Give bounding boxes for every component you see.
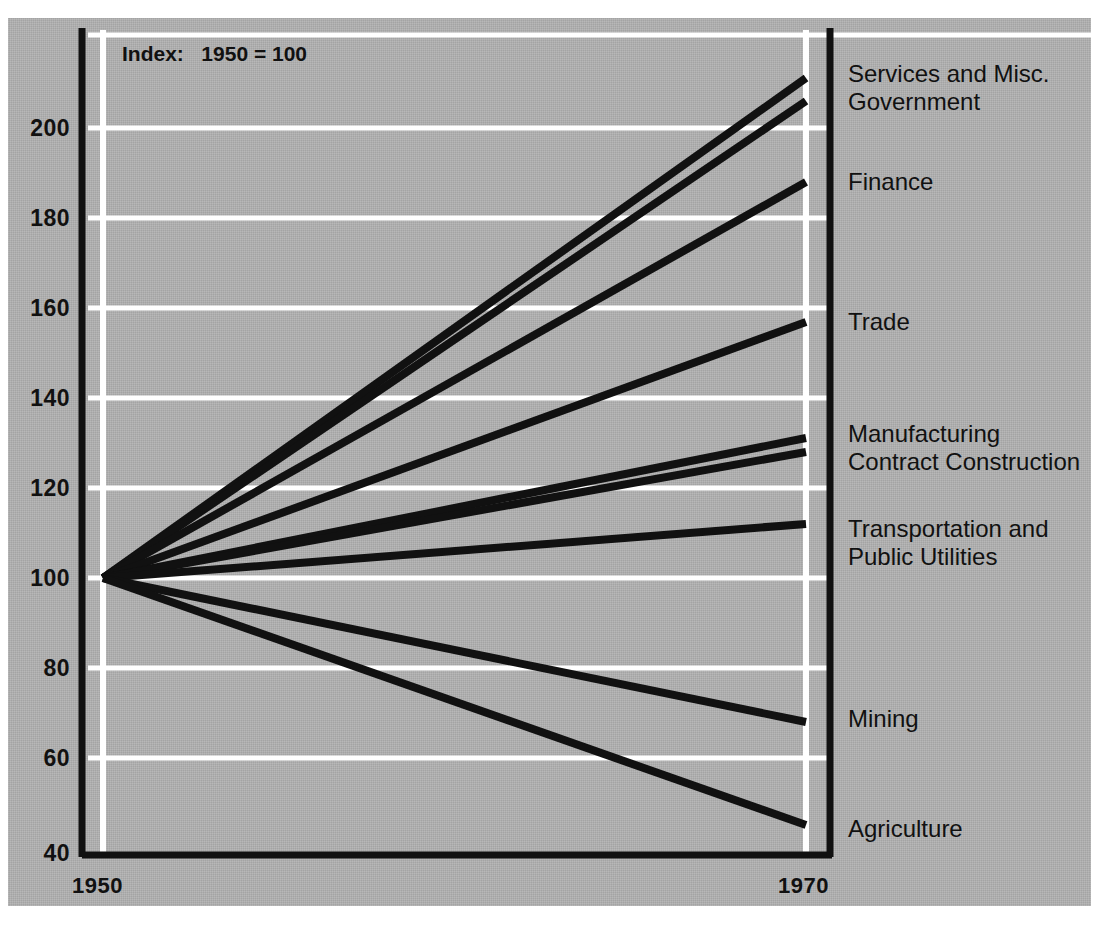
chart-page: Index: 1950 = 100 200 180 160 140 120 10… [0,0,1103,935]
horizontal-gridlines [88,35,1091,758]
data-series-group [103,78,806,825]
x-tick-label-1970: 1970 [778,873,829,899]
legend-label-services-and-misc-government: Services and Misc. Government [848,60,1049,116]
axis-frame [82,28,832,857]
legend-label-mining: Mining [848,705,919,733]
legend-label-agriculture: Agriculture [848,815,963,843]
series-line-transportation-and-public-utilities [103,524,806,578]
series-line-trade [103,322,806,578]
y-tick-label-100: 100 [10,565,70,592]
legend-label-trade: Trade [848,308,910,336]
y-tick-label-200: 200 [10,115,70,142]
y-tick-label-40: 40 [10,840,70,867]
y-tick-label-120: 120 [10,475,70,502]
index-annotation: Index: 1950 = 100 [122,42,307,66]
y-tick-label-80: 80 [10,655,70,682]
legend-label-finance: Finance [848,168,933,196]
y-tick-label-160: 160 [10,295,70,322]
y-tick-label-140: 140 [10,385,70,412]
y-tick-label-60: 60 [10,745,70,772]
legend-label-manufacturing-contract-construction: Manufacturing Contract Construction [848,420,1080,476]
y-tick-label-180: 180 [10,205,70,232]
legend-label-transportation-and-public-utilities: Transportation and Public Utilities [848,515,1049,571]
x-tick-label-1950: 1950 [72,873,123,899]
